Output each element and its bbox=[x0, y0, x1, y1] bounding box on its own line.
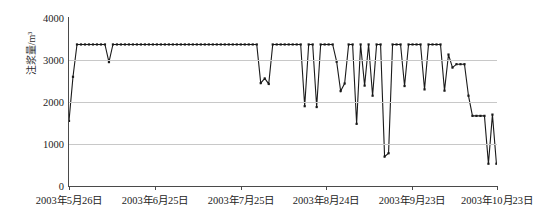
x-label-2: 2003年7月25日 bbox=[208, 192, 275, 207]
x-label-4: 2003年9月23日 bbox=[379, 192, 446, 207]
x-label-0: 2003年5月26日 bbox=[36, 192, 103, 207]
x-tick-5 bbox=[497, 186, 498, 190]
x-tick-3 bbox=[326, 186, 327, 190]
x-label-1: 2003年6月25日 bbox=[122, 192, 189, 207]
x-label-5: 2003年10月23日 bbox=[461, 192, 533, 207]
x-tick-1 bbox=[155, 186, 156, 190]
x-axis-tick-labels: 2003年5月26日 2003年6月25日 2003年7月25日 2003年8月… bbox=[0, 0, 548, 224]
x-tick-4 bbox=[412, 186, 413, 190]
x-tick-0 bbox=[69, 186, 70, 190]
x-label-3: 2003年8月24日 bbox=[293, 192, 360, 207]
x-tick-2 bbox=[241, 186, 242, 190]
chart-figure: 注浆量/m³ 4000 3000 2000 1000 0 2003年5月26日 … bbox=[0, 0, 548, 224]
